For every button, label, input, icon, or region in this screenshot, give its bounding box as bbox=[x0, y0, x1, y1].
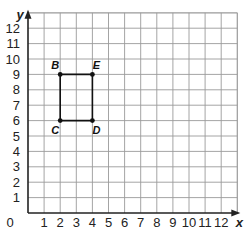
y-tick-label: 12 bbox=[6, 21, 20, 36]
point-b bbox=[58, 72, 63, 77]
point-label-e: E bbox=[93, 59, 101, 71]
point-c bbox=[58, 118, 63, 123]
origin-label: 0 bbox=[6, 215, 13, 230]
x-tick-label: 1 bbox=[40, 215, 47, 230]
x-tick-label: 3 bbox=[73, 215, 80, 230]
point-label-d: D bbox=[92, 124, 100, 136]
coordinate-plane: 1234567891011121234567891011120xy BEDC bbox=[0, 0, 249, 239]
x-tick-label: 5 bbox=[105, 215, 112, 230]
x-tick-label: 4 bbox=[89, 215, 96, 230]
x-axis-label: x bbox=[235, 215, 244, 230]
y-tick-label: 7 bbox=[13, 98, 20, 113]
y-axis-label: y bbox=[15, 7, 24, 22]
x-tick-label: 6 bbox=[121, 215, 128, 230]
x-tick-label: 11 bbox=[198, 215, 212, 230]
x-tick-label: 7 bbox=[137, 215, 144, 230]
grid-lines bbox=[28, 13, 237, 213]
y-tick-label: 11 bbox=[7, 36, 21, 51]
x-tick-label: 8 bbox=[153, 215, 160, 230]
axes bbox=[25, 10, 241, 217]
x-tick-label: 12 bbox=[214, 215, 228, 230]
y-tick-label: 6 bbox=[13, 113, 20, 128]
y-tick-label: 5 bbox=[13, 129, 20, 144]
y-tick-label: 4 bbox=[13, 144, 20, 159]
y-tick-label: 9 bbox=[13, 67, 20, 82]
y-tick-label: 1 bbox=[13, 190, 20, 205]
x-tick-label: 10 bbox=[182, 215, 196, 230]
x-tick-label: 9 bbox=[169, 215, 176, 230]
point-e bbox=[90, 72, 95, 77]
y-tick-label: 3 bbox=[13, 159, 20, 174]
y-tick-label: 10 bbox=[6, 52, 20, 67]
y-tick-label: 8 bbox=[13, 82, 20, 97]
point-label-b: B bbox=[51, 59, 59, 71]
y-axis-arrow-icon bbox=[25, 10, 32, 19]
point-d bbox=[90, 118, 95, 123]
y-tick-label: 2 bbox=[13, 175, 20, 190]
x-tick-label: 2 bbox=[57, 215, 64, 230]
point-label-c: C bbox=[51, 124, 60, 136]
